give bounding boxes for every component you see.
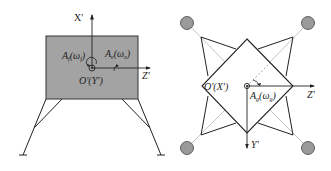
top-view-panel: O'(X') Z' Y' Ag(ωg) bbox=[181, 17, 316, 155]
z-axis-label-top: Z' bbox=[307, 89, 316, 100]
annotation-af: Af(ωf) bbox=[61, 50, 86, 62]
origin-label-top: O'(X') bbox=[204, 81, 229, 93]
lander-coordinate-diagram: X' Z' O'(Y') Af(ωf) Ae(ωe) bbox=[0, 0, 331, 171]
origin-label: O'(Y') bbox=[79, 75, 103, 87]
foot-pad-icon bbox=[302, 142, 315, 155]
foot-pad-icon bbox=[181, 142, 194, 155]
z-axis-label: Z' bbox=[142, 70, 151, 81]
foot-pad-icon bbox=[302, 17, 315, 30]
annotation-ae: Ae(ωe) bbox=[104, 48, 131, 60]
x-axis-label: X' bbox=[74, 12, 83, 23]
side-view-panel: X' Z' O'(Y') Af(ωf) Ae(ωe) bbox=[19, 12, 165, 155]
y-axis-label-top: Y' bbox=[251, 139, 260, 150]
foot-pad-icon bbox=[181, 17, 194, 30]
annotation-ag: Ag(ωg) bbox=[249, 90, 277, 102]
landing-legs bbox=[19, 99, 165, 155]
